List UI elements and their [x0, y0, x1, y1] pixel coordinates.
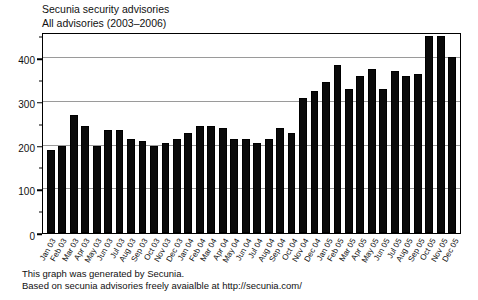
bar-slot: [171, 34, 182, 233]
bar-jun-04: [242, 139, 250, 233]
bar-apr-04: [219, 128, 227, 233]
caption-line-2: Based on secunia advisories freely avaia…: [22, 280, 462, 292]
bar-sep-04: [276, 128, 284, 233]
chart-subtitle: All advisories (2003–2006): [42, 16, 462, 30]
bar-slot: [366, 34, 377, 233]
bar-slot: [423, 34, 434, 233]
bar-slot: [297, 34, 308, 233]
bar-slot: [412, 34, 423, 233]
bar-dec-04: [311, 91, 319, 233]
caption-line-1: This graph was generated by Secunia.: [22, 268, 462, 280]
chart-title-block: Secunia security advisories All advisori…: [42, 2, 462, 30]
bar-dec-03: [173, 139, 181, 233]
bar-slot: [194, 34, 205, 233]
y-tick-label-100: 100: [18, 188, 35, 193]
bar-jan-05: [322, 82, 330, 233]
bar-may-04: [230, 139, 238, 233]
bar-slot: [332, 34, 343, 233]
bar-slot: [229, 34, 240, 233]
bar-oct-04: [288, 133, 296, 234]
bar-sep-05: [414, 74, 422, 233]
bar-oct-03: [150, 146, 158, 233]
bar-series: [43, 34, 460, 233]
bar-dec-05: [448, 57, 456, 233]
bar-jul-05: [391, 71, 399, 233]
bar-nov-03: [162, 143, 170, 233]
bar-slot: [125, 34, 136, 233]
bar-slot: [389, 34, 400, 233]
bar-feb-03: [58, 146, 66, 233]
chart-caption: This graph was generated by Secunia. Bas…: [22, 268, 462, 292]
bar-jul-04: [253, 143, 261, 233]
bar-slot: [343, 34, 354, 233]
bar-slot: [56, 34, 67, 233]
chart-page: Secunia security advisories All advisori…: [0, 0, 478, 300]
bar-aug-05: [402, 76, 410, 233]
bar-feb-05: [334, 65, 342, 233]
bar-mar-05: [345, 89, 353, 233]
bar-oct-05: [425, 36, 433, 233]
bar-nov-04: [299, 98, 307, 233]
bar-slot: [286, 34, 297, 233]
bar-slot: [183, 34, 194, 233]
bar-slot: [206, 34, 217, 233]
y-tick-label-400: 400: [18, 57, 35, 62]
bar-jan-04: [184, 133, 192, 234]
bar-apr-03: [81, 126, 89, 233]
bar-slot: [263, 34, 274, 233]
bar-slot: [68, 34, 79, 233]
bar-slot: [355, 34, 366, 233]
bar-slot: [435, 34, 446, 233]
bar-jan-03: [47, 150, 55, 233]
bar-slot: [378, 34, 389, 233]
bar-jun-05: [379, 89, 387, 233]
bar-slot: [401, 34, 412, 233]
y-tick-label-200: 200: [18, 144, 35, 149]
bar-slot: [79, 34, 90, 233]
y-axis: 0100200300400: [0, 33, 42, 234]
bar-slot: [114, 34, 125, 233]
bar-mar-04: [207, 126, 215, 233]
bar-slot: [251, 34, 262, 233]
bar-slot: [446, 34, 457, 233]
bar-slot: [160, 34, 171, 233]
bar-aug-04: [265, 139, 273, 233]
bar-slot: [274, 34, 285, 233]
y-tick-label-0: 0: [29, 232, 35, 237]
bar-slot: [217, 34, 228, 233]
bar-jul-03: [116, 130, 124, 233]
plot-area: [42, 33, 461, 234]
bar-slot: [45, 34, 56, 233]
bar-slot: [148, 34, 159, 233]
bar-slot: [137, 34, 148, 233]
bar-slot: [91, 34, 102, 233]
bar-apr-05: [356, 76, 364, 233]
bar-jun-03: [104, 130, 112, 233]
bar-slot: [309, 34, 320, 233]
bar-sep-03: [139, 141, 147, 233]
bar-may-05: [368, 69, 376, 233]
page-title: Secunia security advisories: [42, 2, 462, 16]
bar-slot: [240, 34, 251, 233]
bar-mar-03: [70, 115, 78, 233]
y-tick-label-300: 300: [18, 100, 35, 105]
bar-may-03: [93, 146, 101, 233]
bar-nov-05: [437, 36, 445, 233]
bar-feb-04: [196, 126, 204, 233]
bar-aug-03: [127, 139, 135, 233]
bar-slot: [320, 34, 331, 233]
bar-slot: [102, 34, 113, 233]
